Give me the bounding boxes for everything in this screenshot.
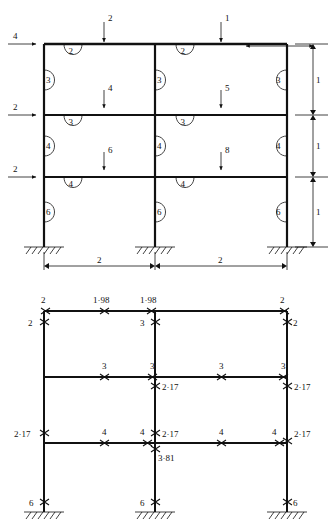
stiffness-value: 4 — [46, 141, 51, 151]
marker-column-right-top-head: 2 — [283, 318, 298, 328]
stiffness-value: 3 — [276, 75, 281, 85]
end-value-label: 2 — [293, 318, 298, 328]
upper-beams — [44, 44, 287, 177]
end-value-label: 4 — [219, 427, 224, 437]
end-value-label: 3 — [150, 361, 155, 371]
stiffness-value: 3 — [69, 117, 74, 127]
marker-base-left: 6 — [29, 498, 49, 508]
stiffness-callout-column-mid-bottom: 6 — [155, 202, 166, 222]
horizontal-load-label: 2 — [13, 164, 18, 174]
lower-support-left — [24, 512, 64, 519]
vertical-load-2-roof-left: 2 — [104, 13, 113, 42]
end-value-label: 2·17 — [294, 429, 311, 439]
end-value-label: 2·17 — [162, 382, 179, 392]
end-value-label: 3·81 — [158, 453, 175, 463]
storey-height-label: 1 — [316, 207, 321, 217]
end-value-label: 6 — [293, 498, 298, 508]
vertical-load-1-roof-right: 1 — [221, 13, 230, 42]
vertical-load-6-first-left: 6 — [104, 145, 113, 170]
end-value-label: 2 — [280, 295, 285, 305]
stiffness-callout-second-beam-left: 3 — [64, 115, 82, 127]
upper-frame-svg: 2 1 4 5 6 8 4 2 — [0, 0, 334, 270]
vertical-load-8-first-right: 8 — [221, 145, 230, 170]
end-value-label: 6 — [29, 498, 34, 508]
end-value-label: 2 — [28, 318, 33, 328]
vertical-load-label: 8 — [225, 145, 230, 155]
end-value-label: 3 — [140, 318, 145, 328]
stiffness-value: 2 — [69, 46, 74, 56]
marker-column-left-top-head: 2 — [28, 318, 49, 328]
stiffness-callout-column-mid-top: 3 — [155, 70, 166, 90]
lower-support-right — [267, 512, 307, 519]
span-label: 2 — [97, 255, 102, 265]
stiffness-value: 4 — [181, 179, 186, 189]
figure-root: 2 1 4 5 6 8 4 2 — [0, 0, 334, 531]
storey-height-label: 1 — [316, 141, 321, 151]
stiffness-callout-roof-beam-left: 2 — [64, 44, 82, 56]
lower-beams — [44, 311, 287, 443]
storey-height-label: 1 — [316, 75, 321, 85]
horizontal-load-label: 4 — [13, 31, 18, 41]
stiffness-value: 3 — [157, 75, 162, 85]
horizontal-load-second: 2 — [8, 102, 36, 115]
stiffness-value: 4 — [276, 141, 281, 151]
end-value-label: 1·98 — [140, 295, 157, 305]
end-value-label: 2·17 — [294, 382, 311, 392]
end-value-label: 3 — [281, 361, 286, 371]
stiffness-value: 6 — [46, 207, 51, 217]
vertical-load-label: 1 — [225, 13, 230, 23]
vertical-load-label: 6 — [108, 145, 113, 155]
end-value-label: 4 — [140, 427, 145, 437]
end-value-label: 1·98 — [93, 295, 110, 305]
stiffness-callout-column-left-mid: 4 — [44, 136, 55, 156]
vertical-load-label: 5 — [225, 83, 230, 93]
end-value-label: 4 — [272, 427, 277, 437]
horizontal-load-label: 2 — [13, 102, 18, 112]
end-value-label: 4 — [102, 427, 107, 437]
end-value-label: 6 — [140, 498, 145, 508]
marker-base-right: 6 — [283, 498, 298, 508]
lower-frame-svg: 2 1·98 1·98 2 2 3 2 3 — [0, 280, 334, 531]
vertical-load-5-second-right: 5 — [221, 83, 230, 108]
vertical-load-label: 2 — [108, 13, 113, 23]
stiffness-value: 4 — [69, 179, 74, 189]
stiffness-value: 6 — [276, 207, 281, 217]
vertical-load-4-second-left: 4 — [104, 83, 113, 108]
stiffness-value: 3 — [46, 75, 51, 85]
stiffness-value: 3 — [181, 117, 186, 127]
stiffness-callout-column-right-bottom: 6 — [276, 202, 287, 222]
stiffness-value: 4 — [157, 141, 162, 151]
marker-base-mid: 6 — [140, 498, 160, 508]
marker-column-mid-top-head: 3 — [140, 318, 160, 328]
stiffness-callout-column-left-bottom: 6 — [44, 202, 55, 222]
stiffness-callout-column-right-mid: 4 — [276, 136, 287, 156]
end-value-label: 2·17 — [14, 429, 31, 439]
span-label: 2 — [218, 255, 223, 265]
end-value-label: 2·17 — [162, 429, 179, 439]
stiffness-callout-first-beam-left: 4 — [64, 177, 82, 189]
end-value-label: 3 — [102, 361, 107, 371]
stiffness-callout-column-mid-mid: 4 — [155, 136, 166, 156]
lower-support-middle — [135, 512, 175, 519]
stiffness-callout-first-beam-right: 4 — [176, 177, 194, 189]
span-dimensions: 2 2 — [44, 252, 287, 270]
lower-columns — [44, 311, 287, 512]
stiffness-value: 2 — [181, 46, 186, 56]
stiffness-callout-roof-beam-right: 2 — [176, 44, 194, 56]
vertical-load-label: 4 — [108, 83, 113, 93]
stiffness-callout-column-right-top: 3 — [276, 70, 287, 90]
horizontal-load-roof: 4 — [8, 31, 36, 44]
stiffness-callout-column-left-top: 3 — [44, 70, 55, 90]
stiffness-callout-second-beam-right: 3 — [176, 115, 194, 127]
horizontal-load-first: 2 — [8, 164, 36, 177]
stiffness-value: 6 — [157, 207, 162, 217]
end-value-label: 3 — [219, 361, 224, 371]
end-value-label: 2 — [41, 295, 46, 305]
